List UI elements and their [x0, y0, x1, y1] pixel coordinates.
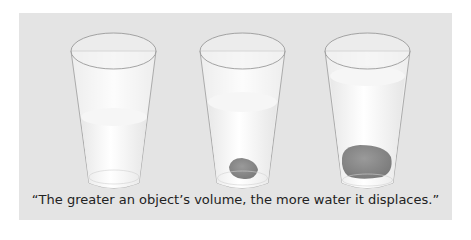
figure-caption: “The greater an object’s volume, the mor…	[19, 192, 452, 207]
glass-small-rock	[200, 33, 285, 188]
glass-large-rock	[325, 33, 410, 188]
water-surface	[208, 92, 277, 112]
glass-rim	[200, 33, 285, 69]
glass-rim	[325, 33, 410, 69]
water-body	[81, 117, 147, 188]
glass-rim	[71, 33, 156, 69]
glass-empty	[71, 33, 156, 188]
water-surface	[81, 108, 147, 126]
